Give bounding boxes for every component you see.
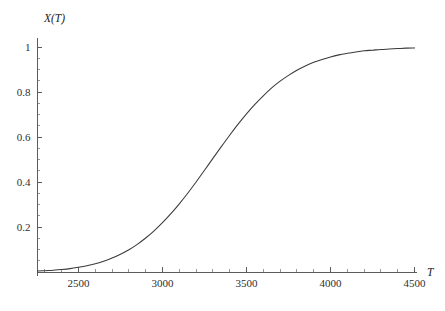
x-axis-tick-labels: 25003000350040004500	[67, 277, 426, 289]
x-tick-label: 2500	[67, 277, 90, 289]
x-tick-label: 3500	[235, 277, 258, 289]
y-tick-label: 0.8	[17, 86, 31, 98]
data-series-line	[38, 48, 415, 271]
y-tick-label: 0.2	[17, 221, 31, 233]
y-axis-label: X(T)	[43, 12, 65, 25]
y-tick-label: 1	[25, 41, 31, 53]
x-tick-label: 4000	[319, 277, 342, 289]
chart-figure: 25003000350040004500 0.20.40.60.81 X(T) …	[0, 0, 445, 311]
y-axis-major-ticks	[38, 47, 43, 227]
x-axis-label: T	[427, 266, 435, 278]
y-tick-label: 0.4	[17, 176, 31, 188]
x-tick-label: 4500	[404, 277, 427, 289]
y-tick-label: 0.6	[17, 131, 31, 143]
plot-canvas: 25003000350040004500 0.20.40.60.81 X(T) …	[0, 0, 445, 311]
y-axis-tick-labels: 0.20.40.60.81	[17, 41, 31, 233]
x-tick-label: 3000	[151, 277, 174, 289]
